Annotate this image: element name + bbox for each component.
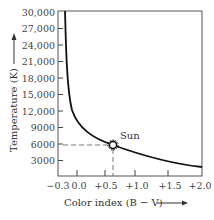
sun-marker [108,140,118,150]
y-axis-tick-labels: 3000 6000 9000 12,000 15,000 18,000 21,0… [22,7,55,167]
temperature-curve [65,11,202,167]
x-tick-minus-0-3: −0.3 [46,180,69,191]
x-tick-0-0: 0.0 [71,180,86,191]
y-tick-15000: 15,000 [22,89,55,100]
sun-label: Sun [120,130,140,141]
y-tick-27000: 27,000 [22,23,55,34]
x-tick-1-0: +1.0 [125,180,148,191]
x-tick-2-0: +2.0 [188,180,211,191]
y-tick-21000: 21,000 [22,56,55,67]
y-axis-ticks [58,29,63,161]
x-axis-tick-labels: −0.3 0.0 +0.5 +1.0 +1.5 +2.0 [46,180,211,191]
temperature-color-index-chart: 3000 6000 9000 12,000 15,000 18,000 21,0… [0,0,214,220]
y-axis-arrow-icon [12,33,17,64]
x-axis-title: Color index (B − V) [64,197,163,208]
y-tick-9000: 9000 [31,122,55,133]
y-tick-3000: 3000 [31,155,55,166]
y-tick-6000: 6000 [31,139,55,150]
x-tick-1-5: +1.5 [158,180,181,191]
y-tick-30000: 30,000 [22,7,55,18]
y-tick-12000: 12,000 [22,106,55,117]
x-tick-0-5: +0.5 [94,180,117,191]
y-tick-18000: 18,000 [22,73,55,84]
x-axis-ticks [77,170,168,176]
y-axis-title: Temperature (K) [8,68,19,152]
y-tick-24000: 24,000 [22,40,55,51]
